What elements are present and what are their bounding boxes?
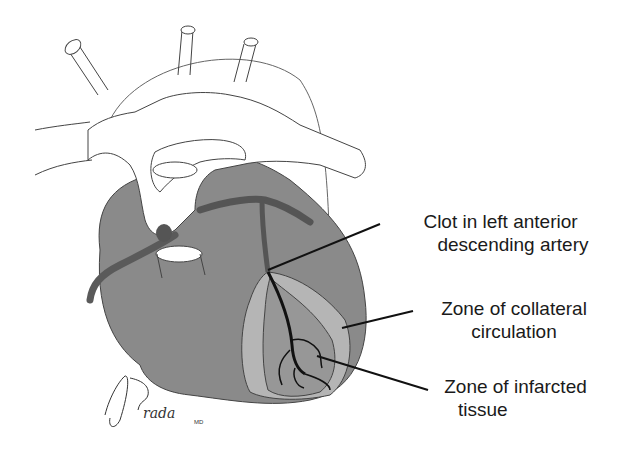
label-infarcted-line2: tissue: [428, 398, 603, 421]
left-vein-lower: [35, 160, 92, 175]
signature-mark: [105, 376, 148, 427]
vena-cava-opening: [156, 246, 202, 262]
label-collateral: Zone of collateral circulation: [424, 297, 604, 343]
right-vessel: [234, 44, 256, 82]
middle-vessel: [178, 30, 193, 75]
coronary-dot: [156, 224, 172, 242]
pulmonary-opening: [153, 162, 197, 178]
signature-name: rada: [143, 405, 175, 421]
label-collateral-line2: circulation: [424, 320, 604, 343]
label-collateral-line1: Zone of collateral: [424, 297, 604, 320]
label-clot: Clot in left anterior descending artery: [398, 210, 603, 256]
label-clot-line1: Clot in left anterior: [398, 210, 603, 233]
left-vein-upper: [35, 122, 90, 130]
signature-suffix: MD: [194, 419, 204, 425]
label-infarcted: Zone of infarcted tissue: [428, 375, 603, 421]
label-infarcted-line1: Zone of infarcted: [428, 375, 603, 398]
label-clot-line2: descending artery: [398, 233, 603, 256]
